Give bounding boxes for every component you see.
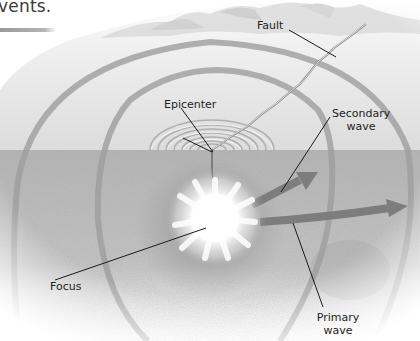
label-secondary-wave-line2: wave	[332, 120, 390, 133]
label-primary-wave-line1: Primary	[316, 311, 360, 324]
label-focus: Focus	[50, 280, 81, 293]
heading-rule	[0, 28, 56, 32]
label-secondary-wave: Secondary wave	[332, 107, 390, 133]
label-secondary-wave-line1: Secondary	[332, 107, 390, 120]
label-epicenter: Epicenter	[164, 98, 216, 111]
label-primary-wave-line2: wave	[316, 324, 360, 337]
earthquake-diagram: vents. Fault Epicenter Secondary wave Fo…	[0, 0, 420, 341]
label-primary-wave: Primary wave	[316, 311, 360, 337]
heading-text-fragment: vents.	[0, 0, 51, 16]
label-fault: Fault	[257, 19, 283, 32]
